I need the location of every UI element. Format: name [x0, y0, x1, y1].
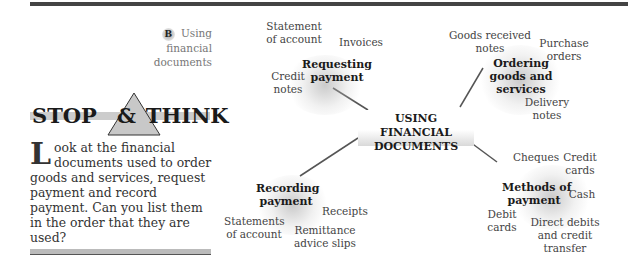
leaf-receipts: Receipts [322, 205, 368, 218]
hub-line: goods and [488, 70, 554, 83]
leaf-debit-cards: Debit cards [486, 208, 518, 234]
leaf-invoices: Invoices [336, 36, 386, 49]
leaf-line: Direct debits [530, 216, 600, 229]
leaf-line: orders [534, 50, 594, 63]
leaf-credit-notes: Credit notes [268, 70, 308, 96]
leaf-line: Invoices [336, 36, 386, 49]
leaf-line: Remittance [293, 224, 357, 237]
hub-line: services [488, 83, 554, 96]
hub-line: Recording [256, 182, 316, 195]
leaf-line: Delivery [522, 96, 572, 109]
leaf-line: Credit [562, 151, 598, 164]
leaf-cheques: Cheques [512, 151, 560, 164]
leaf-line: notes [522, 109, 572, 122]
hub-line: Methods of [502, 181, 566, 194]
leaf-line: of account [224, 228, 284, 241]
leaf-direct-debits: Direct debits and credit transfer [530, 216, 600, 255]
leaf-line: Statement [264, 20, 324, 33]
leaf-line: cards [486, 221, 518, 234]
leaf-line: Purchase [534, 37, 594, 50]
leaf-credit-cards: Credit cards [562, 151, 598, 177]
leaf-line: notes [268, 83, 308, 96]
hub-line: payment [302, 71, 372, 84]
leaf-line: Statements [224, 215, 284, 228]
hub-line: payment [256, 195, 316, 208]
leaf-purchase-orders: Purchase orders [534, 37, 594, 63]
hub-line: Requesting [302, 58, 372, 71]
leaf-statements-of-account: Statements of account [224, 215, 284, 241]
leaf-line: cards [562, 164, 598, 177]
leaf-line: Cash [567, 188, 597, 201]
leaf-line: Goods received [448, 29, 532, 42]
hub-recording-payment: Recording payment [256, 182, 316, 208]
leaf-line: and credit [530, 229, 600, 242]
leaf-line: Cheques [512, 151, 560, 164]
leaf-cash: Cash [567, 188, 597, 201]
leaf-line: of account [264, 33, 324, 46]
center-line1: USING FINANCIAL [358, 110, 474, 140]
leaf-line: Debit [486, 208, 518, 221]
leaf-line: transfer [530, 242, 600, 255]
leaf-line: advice slips [293, 237, 357, 250]
leaf-line: Receipts [322, 205, 368, 218]
mind-map-center: USING FINANCIAL DOCUMENTS [358, 110, 474, 146]
leaf-line: notes [448, 42, 532, 55]
leaf-remittance-advice-slips: Remittance advice slips [293, 224, 357, 250]
hub-methods-of-payment: Methods of payment [502, 181, 566, 207]
leaf-goods-received-notes: Goods received notes [448, 29, 532, 55]
hub-line: payment [502, 194, 566, 207]
leaf-line: Credit [268, 70, 308, 83]
leaf-statement-of-account: Statement of account [264, 20, 324, 46]
hub-requesting-payment: Requesting payment [302, 58, 372, 84]
leaf-delivery-notes: Delivery notes [522, 96, 572, 122]
center-line2: DOCUMENTS [358, 140, 474, 154]
